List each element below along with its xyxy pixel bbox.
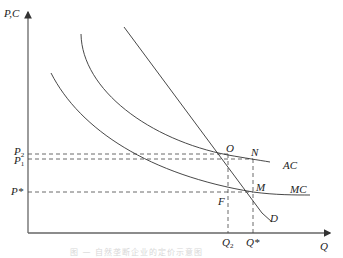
pstar-label: P* xyxy=(11,186,23,197)
ac-label: AC xyxy=(283,160,297,171)
point-f-label: F xyxy=(218,196,225,207)
figure-caption: 图 — 自然垄断企业的定价示意图 xyxy=(70,246,203,257)
q2-label: Q2 xyxy=(222,237,233,250)
dashed-guides xyxy=(28,154,253,233)
point-o-label: O xyxy=(226,143,234,154)
x-axis-label: Q xyxy=(320,241,328,252)
point-n-label: N xyxy=(251,147,258,158)
demand-curve-d xyxy=(124,27,262,213)
cost-curve-diagram xyxy=(0,0,343,258)
y-axis-label: P,C xyxy=(4,8,19,19)
d-label: D xyxy=(270,213,278,224)
mc-label: MC xyxy=(290,184,307,195)
mc-curve xyxy=(51,73,310,195)
qstar-label: Q* xyxy=(246,237,259,248)
p1-label: P1 xyxy=(14,155,24,168)
ac-curve xyxy=(81,34,270,162)
point-m-label: M xyxy=(256,182,265,193)
